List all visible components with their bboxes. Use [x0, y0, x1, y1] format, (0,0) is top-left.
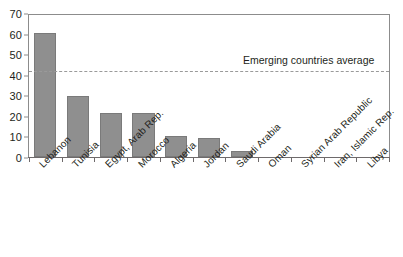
bar-slot	[29, 15, 62, 157]
y-tick-label: 30	[10, 90, 22, 102]
bar	[34, 33, 56, 157]
emerging-countries-average-line	[29, 71, 389, 72]
bar-slot	[94, 15, 127, 157]
bar-slot	[225, 15, 258, 157]
y-tick-label: 70	[10, 8, 22, 20]
y-tick-label: 50	[10, 49, 22, 61]
bar-slot	[291, 15, 324, 157]
x-axis-labels: LebanonTunisiaEgypt, Arab Rep.MoroccoAlg…	[0, 158, 403, 257]
bar-slot	[193, 15, 226, 157]
y-tick-label: 20	[10, 111, 22, 123]
y-axis: 010203040506070	[0, 0, 28, 160]
y-tick-label: 10	[10, 131, 22, 143]
y-tick-label: 60	[10, 29, 22, 41]
bar-chart: 010203040506070 Emerging countries avera…	[0, 0, 403, 257]
emerging-countries-average-label: Emerging countries average	[243, 54, 374, 66]
y-tick-label: 40	[10, 70, 22, 82]
